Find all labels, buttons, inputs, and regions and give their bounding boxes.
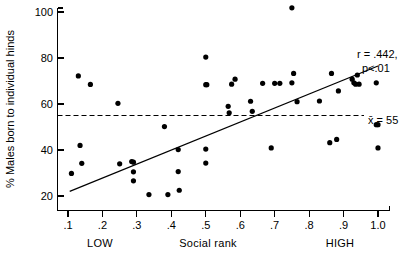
data-point — [232, 77, 237, 82]
x-tick-label-.4: .4 — [167, 219, 176, 231]
data-point — [375, 145, 380, 150]
y-axis-ticks: 20406080100 — [35, 6, 64, 202]
data-point — [176, 169, 181, 174]
data-point — [317, 98, 322, 103]
data-point — [277, 81, 282, 86]
data-point — [272, 81, 277, 86]
data-point — [131, 178, 136, 183]
data-point — [226, 104, 231, 109]
data-point — [248, 99, 253, 104]
data-point — [269, 145, 274, 150]
data-point — [336, 88, 341, 93]
mean-annotation: x̄ = 55 — [368, 114, 398, 126]
data-point — [294, 99, 299, 104]
x-tick-label-.8: .8 — [305, 219, 314, 231]
x-tick-label-.3: .3 — [132, 219, 141, 231]
data-point — [203, 161, 208, 166]
data-point — [327, 140, 332, 145]
data-point — [204, 82, 209, 87]
x-axis-high-label: HIGH — [326, 237, 355, 249]
data-point — [289, 80, 294, 85]
data-point — [177, 188, 182, 193]
data-point — [76, 73, 81, 78]
data-point — [131, 169, 136, 174]
data-point — [165, 192, 170, 197]
data-point — [203, 146, 208, 151]
x-tick-label-.9: .9 — [339, 219, 348, 231]
data-point — [227, 110, 232, 115]
data-point — [355, 72, 360, 77]
data-point — [374, 80, 379, 85]
x-tick-label-.2: .2 — [98, 219, 107, 231]
y-tick-label-100: 100 — [35, 6, 53, 18]
x-tick-label-.1: .1 — [63, 219, 72, 231]
data-point — [146, 192, 151, 197]
correlation-annotation: r = .442, — [357, 48, 398, 60]
data-point — [203, 54, 208, 59]
regression-line — [70, 66, 378, 191]
data-point — [289, 5, 294, 10]
data-points — [69, 5, 381, 197]
x-axis-low-label: LOW — [87, 237, 113, 249]
data-point — [250, 109, 255, 114]
chart-canvas: 20406080100 .1.2.3.4.5.6.7.8.91.0 % Male… — [0, 0, 417, 265]
x-axis-ticks: .1.2.3.4.5.6.7.8.91.0 — [63, 211, 385, 232]
data-point — [77, 143, 82, 148]
data-point — [334, 137, 339, 142]
data-point — [162, 124, 167, 129]
x-axis-title: Social rank — [179, 237, 237, 249]
data-point — [131, 160, 136, 165]
y-tick-label-40: 40 — [41, 144, 53, 156]
data-point — [88, 82, 93, 87]
y-tick-label-20: 20 — [41, 190, 53, 202]
scatter-plot-figure: 20406080100 .1.2.3.4.5.6.7.8.91.0 % Male… — [0, 0, 417, 265]
data-point — [117, 161, 122, 166]
regression-line-path — [70, 66, 378, 191]
data-point — [356, 82, 361, 87]
data-point — [79, 161, 84, 166]
x-tick-label-1.0: 1.0 — [370, 219, 385, 231]
data-point — [291, 71, 296, 76]
data-point — [115, 101, 120, 106]
y-tick-label-80: 80 — [41, 52, 53, 64]
data-point — [260, 81, 265, 86]
data-point — [229, 82, 234, 87]
x-tick-label-.5: .5 — [201, 219, 210, 231]
data-point — [176, 147, 181, 152]
pvalue-annotation: p<.01 — [362, 62, 390, 74]
data-point — [69, 171, 74, 176]
data-point — [329, 71, 334, 76]
x-tick-label-.6: .6 — [236, 219, 245, 231]
x-tick-label-.7: .7 — [270, 219, 279, 231]
y-axis-title: % Males born to individual hinds — [4, 30, 16, 188]
y-tick-label-60: 60 — [41, 98, 53, 110]
